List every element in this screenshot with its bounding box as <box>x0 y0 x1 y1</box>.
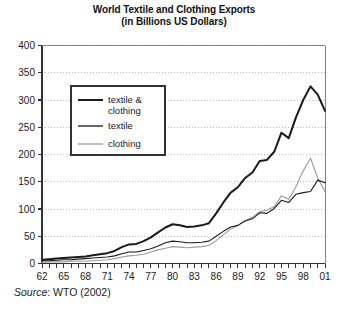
x-tick-label: 77 <box>145 271 157 282</box>
x-tick-label: 68 <box>80 271 92 282</box>
chart-figure: World Textile and Clothing Exports (in B… <box>0 0 348 310</box>
x-tick-label: 92 <box>254 271 266 282</box>
y-tick-label: 250 <box>18 122 35 133</box>
x-tick-label: 95 <box>276 271 288 282</box>
y-tick-label: 400 <box>18 40 35 51</box>
legend-label-0-line2: clothing <box>108 105 141 116</box>
y-axis-tick-labels: 050100150200250300350400 <box>18 40 35 269</box>
legend-label-1: textile <box>108 120 133 131</box>
source-value: : WTO (2002) <box>47 286 110 298</box>
legend-label-2: clothing <box>108 138 141 149</box>
y-tick-label: 100 <box>18 204 35 215</box>
x-tick-label: 74 <box>124 271 136 282</box>
series-line-textile <box>42 180 325 261</box>
x-tick-label: 80 <box>167 271 179 282</box>
source-label: Source <box>14 286 47 298</box>
chart-legend: textile &clothingtextileclothing <box>71 86 165 155</box>
x-tick-label: 65 <box>58 271 70 282</box>
x-tick-label: 86 <box>211 271 223 282</box>
y-tick-label: 300 <box>18 95 35 106</box>
x-tick-label: 62 <box>36 271 48 282</box>
y-tick-label: 0 <box>29 258 35 269</box>
source-caption: Source: WTO (2002) <box>14 286 111 298</box>
axis-layer <box>38 46 325 268</box>
y-tick-label: 150 <box>18 176 35 187</box>
legend-label-0: textile & <box>108 94 142 105</box>
x-tick-label: 83 <box>189 271 201 282</box>
y-tick-label: 350 <box>18 67 35 78</box>
x-tick-label: 98 <box>298 271 310 282</box>
chart-plot-area: 050100150200250300350400 626568717477808… <box>0 0 348 310</box>
series-line-clothing <box>42 158 325 262</box>
x-tick-label: 71 <box>102 271 114 282</box>
x-tick-label: 01 <box>319 271 331 282</box>
x-axis-tick-labels: 6265687174778083868992959801 <box>36 271 331 282</box>
y-tick-label: 200 <box>18 149 35 160</box>
x-tick-label: 89 <box>232 271 244 282</box>
y-tick-label: 50 <box>24 231 36 242</box>
